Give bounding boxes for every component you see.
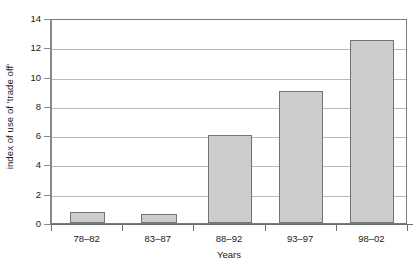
bar <box>141 214 177 223</box>
x-axis-tick-mark <box>336 225 337 231</box>
y-axis-tick-mark <box>44 195 51 196</box>
y-axis-tick-label: 6 <box>36 131 41 141</box>
y-axis-title: index of use of 'trade off' <box>0 0 20 232</box>
y-axis-tick-label: 4 <box>36 161 41 171</box>
x-axis-tick-label: 98–02 <box>358 234 384 244</box>
x-axis-title: Years <box>51 249 407 260</box>
x-axis-tick-label: 88–92 <box>216 234 242 244</box>
y-axis-tick-mark <box>44 165 51 166</box>
y-axis-tick-label: 0 <box>36 219 41 229</box>
y-axis-tick-mark <box>44 19 51 20</box>
x-axis-tick-label: 78–82 <box>73 234 99 244</box>
bar <box>70 212 106 223</box>
x-axis-tick-mark <box>265 225 266 231</box>
x-axis-tick-mark <box>51 225 52 231</box>
x-axis-tick-label: 83–87 <box>145 234 171 244</box>
x-axis-tick-label: 93–97 <box>287 234 313 244</box>
y-axis-title-text: index of use of 'trade off' <box>5 63 16 168</box>
bar <box>279 91 323 223</box>
plot-area <box>51 19 407 224</box>
y-axis-tick-labels: 02468101214 <box>20 0 46 240</box>
bar <box>350 40 394 223</box>
y-axis-tick-mark <box>44 48 51 49</box>
y-axis-tick-label: 8 <box>36 102 41 112</box>
bar-chart-figure: index of use of 'trade off' 02468101214 … <box>0 0 419 267</box>
y-axis-tick-label: 2 <box>36 190 41 200</box>
x-axis-tick-mark <box>193 225 194 231</box>
y-axis-tick-mark <box>44 78 51 79</box>
y-axis-tick-mark <box>44 136 51 137</box>
y-axis-tick-mark <box>44 224 51 225</box>
y-axis-tick-label: 10 <box>30 73 41 83</box>
y-axis-tick-label: 14 <box>30 14 41 24</box>
x-axis-tick-mark <box>407 225 408 231</box>
x-axis-tick-mark <box>122 225 123 231</box>
bar <box>208 135 252 223</box>
y-axis-tick-mark <box>44 107 51 108</box>
y-axis-tick-label: 12 <box>30 44 41 54</box>
x-axis-spine <box>44 224 413 225</box>
